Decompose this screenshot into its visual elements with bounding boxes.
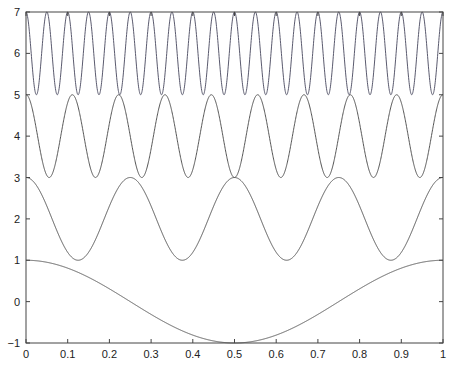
x-tick-label: 0.6 xyxy=(269,348,284,360)
y-tick-label: −1 xyxy=(7,337,20,349)
y-tick-label: 2 xyxy=(14,213,20,225)
x-tick-label: 0.9 xyxy=(394,348,409,360)
series-line-1 xyxy=(26,260,443,343)
y-tick-label: 4 xyxy=(14,130,20,142)
x-tick-label: 0.1 xyxy=(60,348,75,360)
x-tick-label: 0.7 xyxy=(310,348,325,360)
x-tick-label: 0.5 xyxy=(227,348,242,360)
x-axis: 00.10.20.30.40.50.60.70.80.91 xyxy=(23,12,446,360)
y-tick-label: 6 xyxy=(14,47,20,59)
plot-curves xyxy=(26,12,443,343)
series-line-4 xyxy=(26,12,443,95)
x-tick-label: 0.4 xyxy=(185,348,200,360)
series-line-3 xyxy=(26,95,443,178)
y-tick-label: 7 xyxy=(14,6,20,18)
series-line-2 xyxy=(26,178,443,261)
line-chart: 00.10.20.30.40.50.60.70.80.91 −101234567 xyxy=(0,0,457,369)
x-tick-label: 1 xyxy=(440,348,446,360)
x-tick-label: 0.2 xyxy=(102,348,117,360)
y-tick-label: 0 xyxy=(14,296,20,308)
y-tick-label: 5 xyxy=(14,89,20,101)
y-tick-label: 1 xyxy=(14,254,20,266)
y-tick-label: 3 xyxy=(14,172,20,184)
x-tick-label: 0 xyxy=(23,348,29,360)
x-tick-label: 0.3 xyxy=(143,348,158,360)
x-tick-label: 0.8 xyxy=(352,348,367,360)
